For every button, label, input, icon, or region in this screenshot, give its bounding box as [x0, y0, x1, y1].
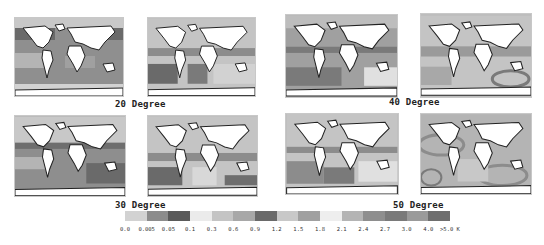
- colorbar-tick-label: 1.8: [315, 226, 325, 232]
- colorbar-tick-label: 4.0: [423, 226, 433, 232]
- colorbar-bin: [233, 211, 255, 221]
- colorbar-tick-label: 2.1: [337, 226, 347, 232]
- colorbar: [125, 211, 450, 221]
- colorbar-bin: [212, 211, 234, 221]
- colorbar-tick-label: 2.4: [358, 226, 368, 232]
- map-30-b: [147, 115, 258, 197]
- colorbar-bin: [428, 211, 450, 221]
- world-map-icon: [15, 18, 123, 96]
- colorbar-tick-label: 0.05: [162, 226, 175, 232]
- colorbar-bin: [168, 211, 190, 221]
- world-map-icon: [286, 15, 397, 97]
- colorbar-bin: [190, 211, 212, 221]
- group-label-50-degree: 50 Degree: [393, 200, 444, 210]
- world-map-icon: [421, 114, 531, 194]
- map-40-b: [420, 13, 532, 98]
- map-30-a: [14, 115, 126, 197]
- colorbar-tick-label: 3.0: [402, 226, 412, 232]
- colorbar-tick-label: 1.2: [272, 226, 282, 232]
- colorbar-tick-labels: 0.00.0050.050.10.30.60.91.21.51.82.12.42…: [120, 226, 460, 236]
- map-20-b: [147, 17, 256, 97]
- map-50-b: [420, 113, 532, 195]
- map-50-a: [285, 113, 399, 195]
- colorbar-tick-label: 0.0: [120, 226, 130, 232]
- colorbar-tick-label: 2.7: [380, 226, 390, 232]
- world-map-icon: [421, 14, 531, 97]
- colorbar-tick-label: 1.5: [293, 226, 303, 232]
- group-label-30-degree: 30 Degree: [115, 200, 166, 210]
- colorbar-bin: [277, 211, 299, 221]
- colorbar-tick-label: 0.005: [138, 226, 155, 232]
- colorbar-bin: [407, 211, 429, 221]
- colorbar-tick-label: >5.0 K: [440, 226, 460, 232]
- world-map-icon: [148, 116, 257, 196]
- colorbar-tick-label: 0.3: [207, 226, 217, 232]
- world-map-icon: [148, 18, 255, 96]
- colorbar-bin: [363, 211, 385, 221]
- colorbar-bin: [320, 211, 342, 221]
- colorbar-tick-label: 0.6: [228, 226, 238, 232]
- colorbar-bin: [342, 211, 364, 221]
- world-map-icon: [15, 116, 125, 196]
- colorbar-bin: [298, 211, 320, 221]
- colorbar-tick-label: 0.1: [185, 226, 195, 232]
- colorbar-bin: [125, 211, 147, 221]
- group-label-20-degree: 20 Degree: [115, 99, 166, 109]
- world-map-icon: [286, 114, 398, 194]
- group-label-40-degree: 40 Degree: [389, 97, 440, 107]
- colorbar-tick-label: 0.9: [250, 226, 260, 232]
- map-40-a: [285, 14, 398, 98]
- map-20-a: [14, 17, 124, 97]
- colorbar-bin: [385, 211, 407, 221]
- colorbar-bin: [255, 211, 277, 221]
- colorbar-bin: [147, 211, 169, 221]
